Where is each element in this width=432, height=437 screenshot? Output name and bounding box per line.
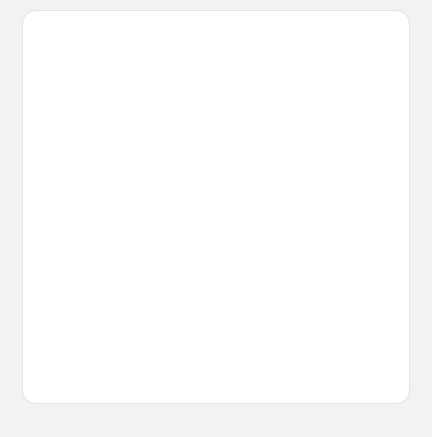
x-axis (99, 251, 395, 267)
bar-chart (37, 55, 397, 267)
chart-page (0, 0, 432, 437)
plot-area (99, 74, 395, 248)
bar-series (99, 74, 395, 248)
chart-card (22, 10, 410, 404)
